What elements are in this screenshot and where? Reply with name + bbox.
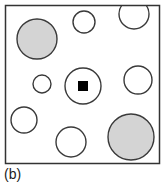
shaded-circle-top-left-shaded: [17, 19, 57, 59]
shaded-circle-bottom-right-shaded: [108, 114, 154, 160]
figure-caption: (b): [4, 166, 21, 182]
open-circle-bottom-left: [11, 107, 37, 133]
open-circle-top-middle-small: [73, 11, 95, 33]
open-circle-top-right-clipped: [119, 0, 149, 29]
circles-layer: [11, 0, 154, 160]
open-circle-middle-right: [124, 66, 152, 94]
open-circle-bottom-middle: [56, 127, 86, 157]
square-marker: [78, 81, 88, 91]
open-circle-middle-left-small: [33, 75, 51, 93]
diagram-figure: [0, 0, 164, 185]
